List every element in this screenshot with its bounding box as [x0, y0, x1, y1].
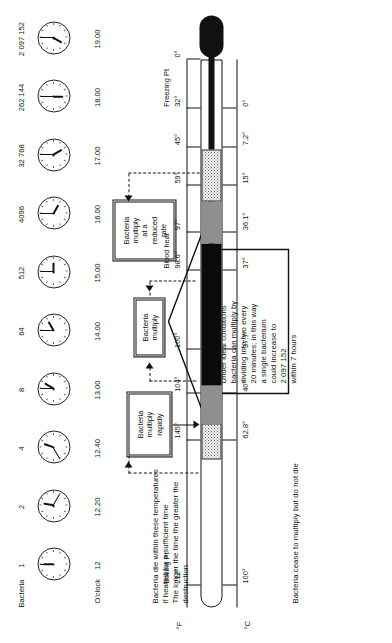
fahrenheit-tick-label: 97° [172, 218, 181, 229]
fahrenheit-tick-label: 145° [172, 423, 181, 438]
figure-root: BacteriaO'clock112212.20412.40813.006414… [0, 0, 392, 643]
celsius-tick-label: 0° [240, 99, 249, 106]
temperature-band-grey [201, 385, 220, 423]
fahrenheit-rail [186, 59, 187, 607]
fahrenheit-tick-label: 212° [172, 568, 181, 583]
celsius-tick [222, 348, 236, 349]
celsius-tick [222, 107, 236, 108]
fahrenheit-tick-label: 45° [172, 134, 181, 145]
celsius-tick-label: 37° [240, 257, 249, 268]
fahrenheit-tick-label: 32° [172, 95, 181, 106]
celsius-tick [222, 392, 236, 393]
celsius-tick [222, 269, 236, 270]
fahrenheit-tick [186, 107, 200, 108]
celsius-tick [222, 439, 236, 440]
celsius-tick-label: 36.1° [240, 212, 249, 229]
fahrenheit-tick [186, 584, 200, 585]
fahrenheit-tick [186, 231, 200, 232]
fahrenheit-tick-label: 98.6° [172, 251, 181, 268]
fahrenheit-tick-label: 0° [172, 50, 181, 57]
temperature-band-black [201, 243, 220, 385]
fahrenheit-tick-label: 100° [172, 332, 181, 347]
celsius-tick [222, 146, 236, 147]
temperature-band-speck [201, 149, 220, 201]
celsius-tick [222, 231, 236, 232]
thermometer-bulb [199, 15, 223, 57]
fahrenheit-tick-note: Boiling Pt [161, 552, 170, 583]
celsius-rail [236, 59, 237, 607]
temperature-band-grey [201, 202, 220, 243]
celsius-tick-label: 62.8° [240, 421, 249, 438]
temperature-band-speck [201, 423, 220, 459]
fahrenheit-tick [186, 439, 200, 440]
fahrenheit-tick [186, 58, 200, 59]
diagram-canvas: BacteriaO'clock112212.20412.40813.006414… [0, 0, 392, 643]
fahrenheit-tick [186, 269, 200, 270]
unit-celsius: °C [242, 620, 251, 629]
fahrenheit-tick-label: 104° [172, 376, 181, 391]
celsius-tick [222, 184, 236, 185]
fahrenheit-tick [186, 184, 200, 185]
celsius-tick-label: 40° [240, 380, 249, 391]
unit-fahrenheit: °F [174, 621, 183, 629]
fahrenheit-tick [186, 348, 200, 349]
celsius-tick-label: 7.2° [240, 131, 249, 144]
celsius-tick [222, 584, 236, 585]
fahrenheit-tick [186, 146, 200, 147]
fahrenheit-tick-note: Blood heat [161, 233, 170, 268]
fahrenheit-tick [186, 392, 200, 393]
thermometer: °F°C212°Boiling Pt145°104°100°98.6°Blood… [0, 0, 392, 643]
celsius-tick-label: 15° [240, 172, 249, 183]
celsius-tick-label: 100° [240, 568, 249, 583]
fahrenheit-tick-label: 59° [172, 172, 181, 183]
fahrenheit-tick-note: Freezing Pt [161, 69, 170, 107]
celsius-tick-label: 37.7° [240, 330, 249, 347]
